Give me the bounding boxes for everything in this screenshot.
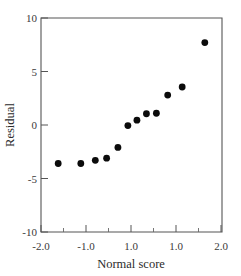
x-tick-label: 1.0 bbox=[124, 240, 138, 252]
x-tick-label: 1.0 bbox=[169, 240, 183, 252]
scatter-chart-svg: 10 5 0 -5 -10 -2.0 -1.0 1.0 1.0 2.0 Norm… bbox=[0, 0, 241, 276]
y-axis-title: Residual bbox=[3, 103, 17, 147]
x-tick-label: 2.0 bbox=[214, 240, 228, 252]
data-point bbox=[92, 157, 99, 164]
y-tick-label: 10 bbox=[26, 12, 38, 24]
y-tick-label: -5 bbox=[28, 173, 38, 185]
data-point bbox=[124, 122, 131, 129]
data-point bbox=[179, 84, 186, 91]
data-point bbox=[77, 160, 84, 167]
data-point bbox=[153, 110, 160, 117]
data-point bbox=[55, 160, 62, 167]
y-tick-label: 5 bbox=[32, 66, 38, 78]
data-point bbox=[143, 110, 150, 117]
data-point bbox=[201, 39, 208, 46]
data-point bbox=[115, 144, 122, 151]
y-tick-label: 0 bbox=[32, 119, 38, 131]
x-tick-label: -1.0 bbox=[77, 240, 95, 252]
y-tick-label: -10 bbox=[22, 226, 37, 238]
data-point bbox=[164, 92, 171, 99]
x-axis-title: Normal score bbox=[97, 257, 165, 271]
data-point bbox=[103, 155, 110, 162]
x-tick-label: -2.0 bbox=[32, 240, 50, 252]
data-point bbox=[134, 117, 141, 124]
normal-probability-plot: 10 5 0 -5 -10 -2.0 -1.0 1.0 1.0 2.0 Norm… bbox=[0, 0, 241, 276]
